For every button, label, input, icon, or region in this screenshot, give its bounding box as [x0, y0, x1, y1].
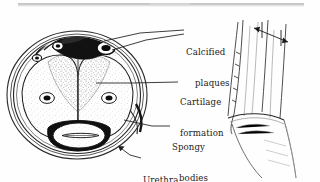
label-line-1: Calcified — [186, 47, 230, 57]
label-line-1: Cartilage — [180, 97, 224, 107]
measure-arrow — [254, 22, 288, 46]
label-line-1: Urethra — [143, 175, 178, 182]
label-urethra: Urethra — [143, 155, 178, 182]
label-line-1: Spongy — [172, 142, 208, 152]
anatomical-figure: Calcified plaques Cartilage formation Sp… — [0, 0, 320, 182]
